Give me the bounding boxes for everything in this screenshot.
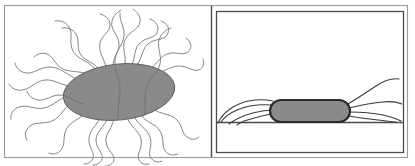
- figure-background: [0, 0, 415, 166]
- cell-body-rod: [270, 100, 350, 122]
- figure-root: [0, 0, 415, 166]
- bacterium-flagella-figure: [0, 0, 415, 166]
